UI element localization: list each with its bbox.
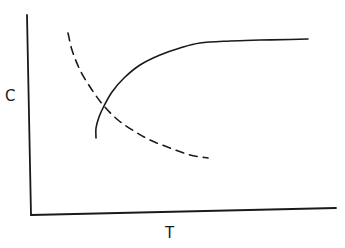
x-axis [31,208,336,215]
chart: C T [0,0,345,248]
solid-curve [96,39,308,138]
y-axis-label: C [5,87,15,105]
axes [27,15,336,215]
y-axis [27,15,31,215]
dashed-curve [68,33,208,158]
x-axis-label: T [164,224,175,242]
